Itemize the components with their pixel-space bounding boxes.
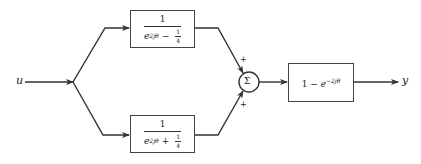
bottom-block-numerator: 1 — [160, 120, 166, 131]
top-block-numerator: 1 — [160, 15, 166, 26]
plus-sign-bottom: + — [240, 100, 247, 109]
top-block-denominator: e2jθ − 1 4 — [144, 26, 181, 44]
output-label-y: y — [402, 74, 408, 87]
output-block-expression: 1 − e−2jθ — [302, 77, 341, 89]
output-block-exponent: −2jθ — [326, 77, 340, 84]
quarter-den: 4 — [176, 142, 180, 149]
bottom-block-exponent: 2jθ — [149, 138, 158, 144]
bottom-block-denominator: e2jθ + 1 4 — [144, 131, 181, 149]
output-block-prefix: 1 − — [302, 79, 321, 89]
input-label-u: u — [16, 74, 23, 87]
top-block-quarter: 1 4 — [175, 29, 181, 44]
bottom-block-fraction: 1 e2jθ + 1 4 — [144, 120, 181, 149]
branch-upper — [73, 28, 129, 82]
bottom-to-sum-arrow — [195, 91, 243, 135]
output-transfer-block: 1 − e−2jθ — [288, 63, 354, 102]
top-block-exponent: 2jθ — [149, 33, 158, 39]
bottom-block-operator: + — [162, 137, 170, 146]
plus-sign-top: + — [240, 55, 247, 64]
diagram-wires — [0, 0, 421, 164]
bottom-block-quarter: 1 4 — [175, 134, 181, 149]
top-block-fraction: 1 e2jθ − 1 4 — [144, 15, 181, 44]
branch-lower — [73, 82, 129, 135]
quarter-num: 1 — [175, 134, 181, 142]
top-block-operator: − — [162, 32, 170, 41]
top-to-sum-arrow — [195, 28, 243, 73]
sigma-symbol: Σ — [244, 76, 250, 86]
top-transfer-block: 1 e2jθ − 1 4 — [130, 10, 195, 48]
quarter-num: 1 — [175, 29, 181, 37]
quarter-den: 4 — [176, 37, 180, 44]
bottom-transfer-block: 1 e2jθ + 1 4 — [130, 115, 195, 153]
